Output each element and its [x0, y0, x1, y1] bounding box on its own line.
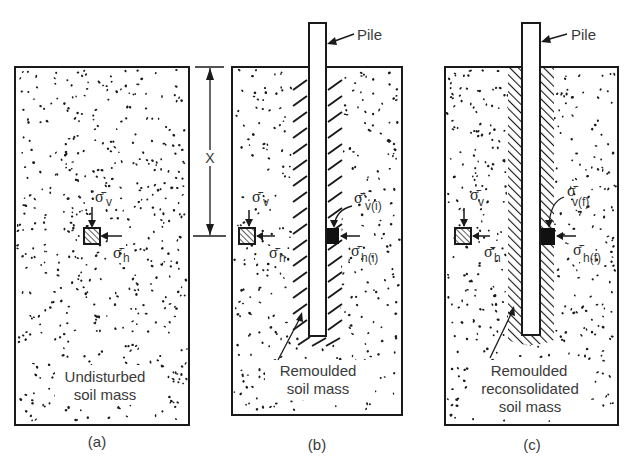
soil-speckle — [88, 212, 91, 215]
soil-speckle — [281, 149, 284, 153]
soil-speckle — [568, 352, 570, 355]
soil-speckle — [570, 138, 573, 141]
soil-speckle — [145, 107, 148, 109]
soil-speckle — [239, 224, 242, 227]
soil-speckle — [360, 268, 363, 271]
soil-speckle — [476, 226, 479, 229]
stress-element-a: σ̄ v σ̄ h — [84, 188, 130, 265]
soil-speckle — [612, 264, 615, 267]
soil-speckle — [155, 164, 157, 166]
soil-speckle — [474, 167, 477, 170]
soil-speckle — [574, 294, 577, 297]
soil-speckle — [109, 297, 112, 300]
soil-speckle — [80, 257, 83, 260]
soil-speckle — [155, 414, 157, 417]
soil-speckle — [67, 230, 71, 233]
soil-speckle — [41, 188, 43, 190]
soil-speckle — [24, 394, 27, 397]
soil-speckle — [493, 334, 495, 336]
soil-speckle — [34, 222, 37, 225]
soil-speckle — [150, 264, 154, 267]
soil-speckle — [335, 405, 337, 407]
arrowhead-icon — [460, 219, 468, 227]
soil-speckle — [237, 224, 239, 226]
arrowhead-icon — [556, 232, 563, 240]
soil-speckle — [151, 289, 154, 292]
soil-speckle — [519, 355, 522, 358]
soil-speckle — [479, 308, 482, 311]
soil-speckle — [156, 359, 159, 361]
soil-speckle — [449, 87, 452, 90]
soil-speckle — [383, 188, 387, 191]
soil-speckle — [44, 309, 46, 312]
sigma-v-symbol-b-pile: σ̄ — [354, 189, 366, 206]
soil-speckle — [572, 311, 576, 315]
soil-speckle — [94, 108, 98, 111]
soil-speckle — [131, 277, 135, 281]
soil-speckle — [178, 235, 182, 238]
soil-speckle — [497, 146, 500, 149]
soil-speckle — [593, 156, 596, 158]
soil-speckle — [181, 177, 184, 180]
soil-speckle — [486, 347, 489, 350]
soil-speckle — [266, 148, 268, 150]
soil-speckle — [124, 84, 127, 88]
soil-speckle — [66, 197, 69, 200]
soil-speckle — [115, 292, 117, 295]
soil-speckle — [378, 108, 381, 112]
soil-speckle — [27, 121, 30, 125]
soil-speckle — [452, 256, 455, 259]
soil-speckle — [120, 160, 123, 164]
soil-speckle — [54, 83, 57, 85]
soil-speckle — [447, 77, 450, 81]
soil-speckle — [393, 392, 395, 395]
panel-b: Pile Remoulded soil mass σ̄ v σ̄ h — [232, 23, 402, 453]
soil-speckle — [577, 74, 580, 78]
soil-speckle — [135, 344, 138, 347]
soil-speckle — [367, 176, 369, 179]
soil-speckle — [453, 72, 456, 74]
soil-speckle — [604, 307, 606, 309]
soil-speckle — [151, 159, 155, 163]
soil-speckle — [566, 88, 569, 91]
soil-speckle — [557, 275, 561, 278]
soil-speckle — [173, 94, 176, 97]
soil-speckle — [182, 383, 184, 385]
soil-speckle — [161, 410, 164, 413]
soil-speckle — [389, 244, 392, 247]
soil-speckle — [490, 287, 493, 290]
soil-speckle — [77, 152, 80, 155]
soil-speckle — [605, 241, 608, 244]
soil-speckle — [264, 91, 267, 94]
soil-speckle — [110, 80, 113, 83]
soil-speckle — [233, 391, 235, 393]
soil-speckle — [96, 124, 99, 127]
soil-speckle — [176, 290, 180, 294]
soil-speckle — [118, 151, 120, 153]
soil-speckle — [165, 125, 168, 128]
soil-speckle — [71, 207, 74, 210]
soil-speckle — [354, 166, 356, 169]
soil-speckle — [603, 215, 606, 218]
soil-speckle — [32, 363, 35, 365]
soil-speckle — [22, 334, 25, 337]
soil-speckle — [266, 274, 269, 277]
arrowhead-down-icon — [206, 224, 214, 235]
soil-speckle — [97, 353, 101, 356]
soil-speckle — [258, 301, 261, 304]
soil-speckle — [342, 272, 345, 275]
soil-speckle — [64, 143, 67, 146]
soil-speckle — [496, 330, 498, 333]
soil-speckle — [170, 260, 172, 262]
soil-speckle — [176, 401, 179, 404]
soil-speckle — [150, 260, 153, 263]
soil-speckle — [182, 185, 185, 187]
soil-speckle — [76, 213, 78, 215]
soil-speckle — [49, 192, 51, 195]
soil-speckle — [383, 376, 385, 378]
soil-speckle — [282, 120, 284, 122]
soil-speckle — [470, 102, 472, 105]
soil-speckle — [21, 152, 23, 154]
soil-speckle — [165, 197, 167, 199]
soil-speckle — [591, 189, 593, 191]
